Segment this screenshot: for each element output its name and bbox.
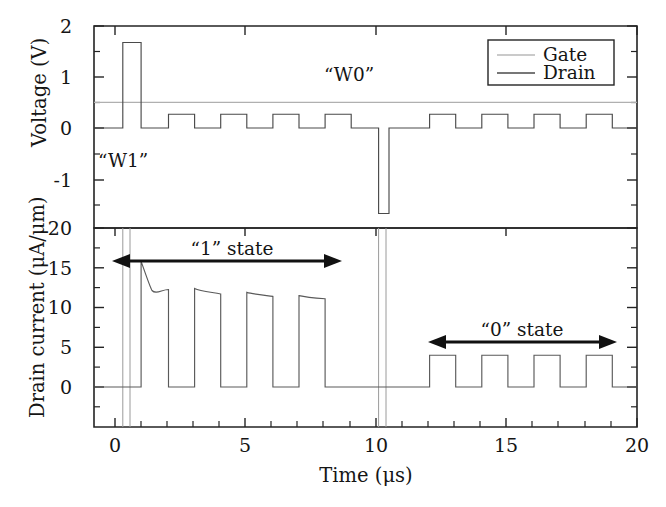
bottom-ytick-label-5: 5 xyxy=(60,338,72,357)
annotation-zero-state: “0” state xyxy=(481,321,564,340)
y-axis-label-voltage: Voltage (V) xyxy=(30,38,50,147)
top-ytick-label-1: 1 xyxy=(60,68,72,87)
bottom-ytick-label-15: 15 xyxy=(48,259,72,278)
top-ytick-label-neg1: -1 xyxy=(53,171,72,190)
bottom-ytick-label-20: 20 xyxy=(48,219,72,238)
xtick-label-20: 20 xyxy=(625,436,649,455)
xtick-label-5: 5 xyxy=(239,436,251,455)
xtick-label-15: 15 xyxy=(494,436,518,455)
top-ytick-label-2: 2 xyxy=(60,17,72,36)
annotation-one-state: “1” state xyxy=(191,240,274,259)
bottom-ytick-label-10: 10 xyxy=(48,298,72,317)
x-axis-label-time: Time (μs) xyxy=(319,466,412,486)
top-ytick-label-0: 0 xyxy=(60,119,72,138)
y-axis-label-drain-current: Drain current (μA/μm) xyxy=(28,196,48,418)
top-panel-xticks xyxy=(115,26,637,35)
annotation-w0: “W0” xyxy=(324,66,374,85)
legend-label-drain: Drain xyxy=(543,64,596,83)
bottom-panel-yticks xyxy=(94,228,637,407)
xtick-label-0: 0 xyxy=(109,436,121,455)
xtick-label-10: 10 xyxy=(364,436,388,455)
bottom-ytick-label-0: 0 xyxy=(60,378,72,397)
annotation-w1: “W1” xyxy=(98,152,148,171)
figure-root: 2 1 0 -1 20 15 10 5 0 0 5 10 15 20 Volta… xyxy=(0,0,666,507)
